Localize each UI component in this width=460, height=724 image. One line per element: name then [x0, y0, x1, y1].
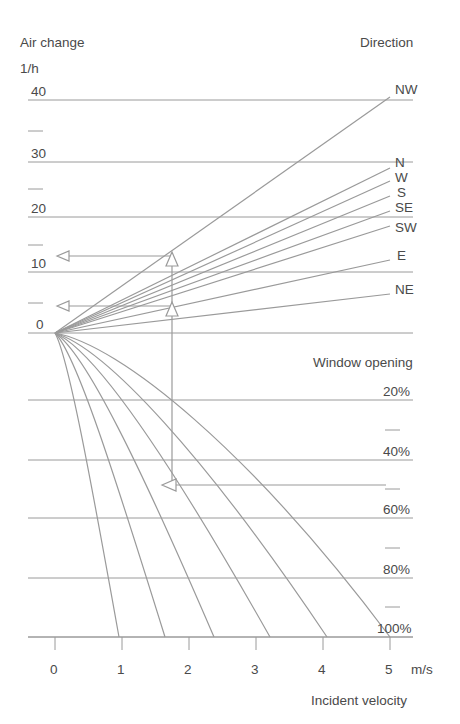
opening-tick-label-20: 20%: [383, 385, 410, 399]
y-tick-label-20: 20: [31, 202, 46, 216]
arrow-head-left-opening: [162, 479, 176, 491]
opening-tick-label-80: 80%: [383, 563, 410, 577]
series-label-nw: NW: [395, 83, 418, 97]
chart-canvas: Air change 1/h Direction Window opening …: [0, 0, 460, 724]
gridlines-lower: [28, 400, 413, 637]
series-label-ne: NE: [395, 283, 414, 297]
opening-tick-label-40: 40%: [383, 445, 410, 459]
arrow-head-left-upper: [57, 251, 69, 261]
y-tick-label-30: 30: [31, 147, 46, 161]
direction-rays: [55, 97, 390, 333]
series-label-se: SE: [395, 201, 413, 215]
y-axis-unit: 1/h: [20, 62, 39, 76]
series-label-w: W: [395, 171, 408, 185]
y-tick-label-10: 10: [31, 257, 46, 271]
x-axis-title: Incident velocity: [311, 694, 407, 708]
ray-w: [55, 181, 390, 333]
x-tick-label-3: 3: [251, 663, 259, 677]
x-axis: [28, 637, 413, 650]
ray-n: [55, 168, 390, 333]
ray-sw: [55, 226, 390, 333]
series-label-e: E: [397, 249, 406, 263]
x-tick-label-2: 2: [184, 663, 192, 677]
ray-ne: [55, 294, 390, 333]
ray-nw: [55, 97, 390, 333]
x-tick-label-1: 1: [117, 663, 125, 677]
curve-opening-100: [55, 333, 165, 637]
series-label-n: N: [395, 156, 405, 170]
y-tick-label-40: 40: [31, 85, 46, 99]
curve-opening-120: [55, 333, 119, 637]
window-opening-legend-title: Window opening: [313, 356, 413, 370]
x-axis-unit: m/s: [411, 663, 433, 677]
direction-legend-title: Direction: [360, 36, 413, 50]
series-label-sw: SW: [395, 221, 417, 235]
x-tick-label-5: 5: [385, 663, 393, 677]
x-tick-label-4: 4: [318, 663, 326, 677]
arrow-head-left-lower: [57, 301, 69, 311]
ray-e: [55, 260, 390, 333]
y-axis-title: Air change: [20, 36, 85, 50]
opening-tick-label-60: 60%: [383, 503, 410, 517]
x-tick-label-0: 0: [50, 663, 58, 677]
series-label-s: S: [397, 186, 406, 200]
opening-tick-label-100: 100%: [377, 622, 412, 636]
y-tick-label-0: 0: [36, 318, 44, 332]
